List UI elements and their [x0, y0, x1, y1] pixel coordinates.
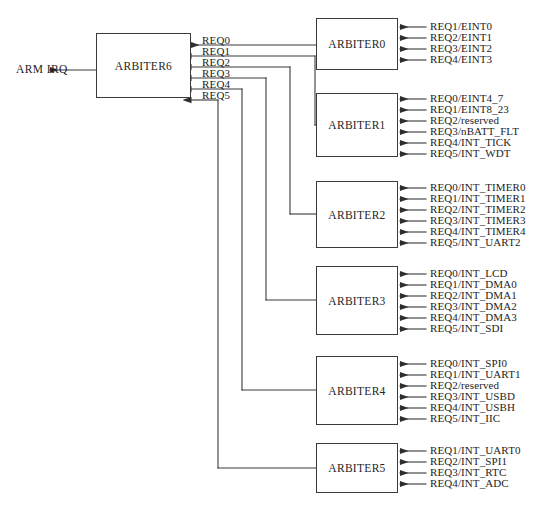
arbiter-box-arbiter3[interactable]: ARBITER3 — [316, 266, 398, 335]
arbiter-box-arbiter5[interactable]: ARBITER5 — [316, 443, 398, 493]
arm-irq-label: ARM IRQ — [16, 63, 68, 75]
arbiter-box-arbiter2[interactable]: ARBITER2 — [316, 181, 398, 248]
signal-label: REQ5/INT_WDT — [430, 147, 511, 159]
signal-label: REQ4/EINT3 — [430, 53, 492, 65]
signal-label: REQ4/INT_ADC — [430, 477, 509, 489]
arbiter-box-arbiter6[interactable]: ARBITER6 — [96, 33, 191, 98]
signal-label: REQ5/INT_UART2 — [430, 236, 521, 248]
arbiter-diagram: ARM IRQ ARBITER6 REQ0 REQ1 REQ2 REQ3 REQ… — [0, 0, 534, 508]
arbiter-box-arbiter0[interactable]: ARBITER0 — [316, 18, 398, 70]
signal-label: REQ5/INT_IIC — [430, 412, 500, 424]
signal-label: REQ5/INT_SDI — [430, 322, 503, 334]
req-label-req5: REQ5 — [202, 89, 230, 101]
arbiter-box-arbiter1[interactable]: ARBITER1 — [316, 93, 398, 157]
wire-layer — [0, 0, 534, 508]
arbiter-box-arbiter4[interactable]: ARBITER4 — [316, 356, 398, 425]
